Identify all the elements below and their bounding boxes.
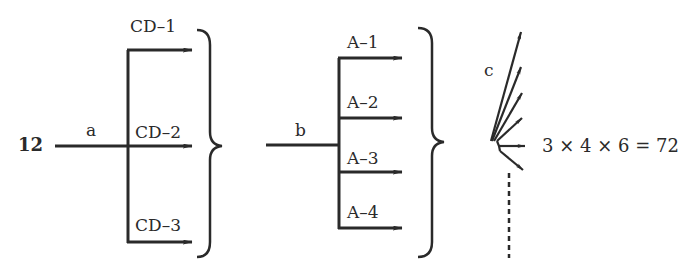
equation: 3 × 4 × 6 = 72: [542, 137, 678, 155]
label-a3: A–3: [347, 150, 379, 167]
label-a1: A–1: [347, 34, 379, 51]
label-b: b: [295, 122, 306, 139]
brace-2: [418, 28, 444, 257]
label-c: c: [484, 62, 494, 79]
fan-arrow-6: [500, 151, 523, 170]
input-value-12: 12: [18, 136, 43, 154]
label-cd3: CD–3: [135, 217, 181, 234]
fan-joint: [497, 141, 500, 151]
label-cd2: CD–2: [135, 124, 181, 141]
label-a2: A–2: [347, 94, 379, 111]
fan-arrow-1: [491, 32, 521, 141]
label-cd1: CD–1: [130, 18, 176, 35]
brace-1: [197, 30, 222, 257]
tree-diagram: 12 a CD–1 CD–2 CD–3 b A–1 A–2 A–3 A–4 c …: [0, 0, 678, 272]
label-a: a: [86, 122, 96, 139]
stage3-fan: [491, 32, 525, 170]
label-a4: A–4: [347, 204, 379, 221]
stage2-branch: [266, 58, 402, 229]
